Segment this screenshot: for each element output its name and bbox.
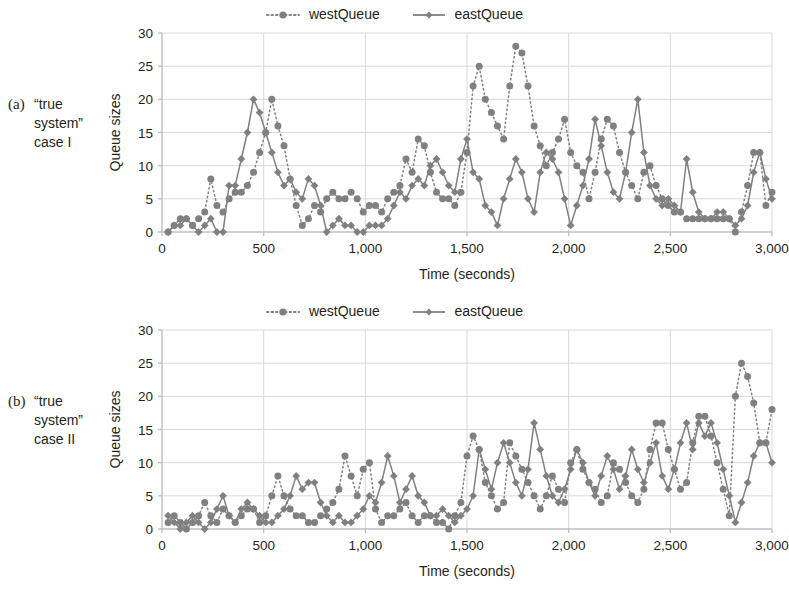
data-point-westqueue: [628, 492, 635, 499]
x-tick-label: 1,500: [450, 241, 484, 256]
data-point-westqueue: [378, 209, 385, 216]
data-point-westqueue: [354, 195, 361, 202]
x-tick-label: 0: [158, 538, 166, 553]
y-tick-label: 30: [138, 323, 153, 338]
y-tick-label: 10: [138, 159, 153, 174]
data-point-eastqueue: [494, 459, 502, 467]
data-point-eastqueue: [640, 479, 648, 487]
data-point-westqueue: [250, 169, 257, 176]
y-tick-label: 0: [145, 225, 153, 240]
data-point-eastqueue: [744, 479, 752, 487]
x-tick-label: 500: [252, 538, 275, 553]
data-point-eastqueue: [524, 195, 532, 203]
x-tick-label: 0: [158, 241, 166, 256]
data-point-westqueue: [445, 195, 452, 202]
data-point-westqueue: [293, 512, 300, 519]
data-point-westqueue: [299, 512, 306, 519]
data-point-eastqueue: [622, 168, 630, 176]
data-point-eastqueue: [378, 479, 386, 487]
data-point-eastqueue: [732, 519, 740, 527]
data-point-westqueue: [415, 519, 422, 526]
data-point-westqueue: [512, 43, 519, 50]
data-point-eastqueue: [677, 439, 685, 447]
data-point-westqueue: [457, 499, 464, 506]
data-point-westqueue: [415, 136, 422, 143]
data-point-eastqueue: [402, 485, 410, 493]
data-point-westqueue: [659, 419, 666, 426]
panel-a: (a) “true system” case I westQueue eastQ…: [0, 0, 789, 297]
data-point-eastqueue: [750, 452, 758, 460]
y-tick-label: 25: [138, 356, 153, 371]
data-point-eastqueue: [292, 472, 300, 480]
data-point-westqueue: [518, 49, 525, 56]
data-point-eastqueue: [494, 222, 502, 230]
y-tick-label: 20: [138, 389, 153, 404]
data-point-westqueue: [439, 195, 446, 202]
data-point-westqueue: [689, 215, 696, 222]
data-point-westqueue: [244, 182, 251, 189]
data-point-westqueue: [238, 189, 245, 196]
data-point-westqueue: [195, 215, 202, 222]
data-point-westqueue: [561, 116, 568, 123]
data-point-westqueue: [604, 116, 611, 123]
data-point-eastqueue: [530, 419, 538, 427]
data-point-eastqueue: [573, 202, 581, 210]
data-point-westqueue: [604, 492, 611, 499]
data-point-westqueue: [403, 156, 410, 163]
data-point-westqueue: [634, 499, 641, 506]
y-tick-label: 30: [138, 26, 153, 41]
data-point-westqueue: [762, 202, 769, 209]
data-point-eastqueue: [463, 135, 471, 143]
panel-b-plot: 05101520253005001,0001,5002,0002,5003,00…: [0, 297, 789, 594]
data-point-eastqueue: [616, 485, 624, 493]
data-point-eastqueue: [713, 439, 721, 447]
data-point-eastqueue: [573, 446, 581, 454]
data-point-eastqueue: [628, 129, 636, 137]
data-point-eastqueue: [475, 446, 483, 454]
data-point-westqueue: [232, 189, 239, 196]
data-point-westqueue: [335, 486, 342, 493]
x-tick-label: 2,500: [653, 241, 687, 256]
data-point-westqueue: [714, 459, 721, 466]
data-point-westqueue: [683, 215, 690, 222]
data-point-westqueue: [750, 400, 757, 407]
data-point-westqueue: [665, 446, 672, 453]
data-point-westqueue: [640, 486, 647, 493]
data-point-eastqueue: [500, 439, 508, 447]
data-point-eastqueue: [652, 439, 660, 447]
data-point-eastqueue: [488, 485, 496, 493]
data-point-eastqueue: [683, 419, 691, 427]
data-point-westqueue: [586, 195, 593, 202]
data-point-westqueue: [470, 83, 477, 90]
data-point-eastqueue: [561, 485, 569, 493]
data-point-westqueue: [531, 122, 538, 129]
data-point-westqueue: [207, 175, 214, 182]
data-point-westqueue: [342, 195, 349, 202]
data-point-westqueue: [610, 122, 617, 129]
data-point-westqueue: [439, 519, 446, 526]
data-point-eastqueue: [268, 149, 276, 157]
panel-b: (b) “true system” case II westQueue east…: [0, 297, 789, 594]
data-point-westqueue: [360, 466, 367, 473]
data-point-eastqueue: [597, 142, 605, 150]
data-point-westqueue: [506, 83, 513, 90]
data-point-eastqueue: [390, 202, 398, 210]
data-point-westqueue: [744, 373, 751, 380]
data-point-westqueue: [421, 142, 428, 149]
data-point-eastqueue: [725, 492, 733, 500]
y-tick-label: 20: [138, 92, 153, 107]
data-point-eastqueue: [384, 452, 392, 460]
data-point-westqueue: [201, 209, 208, 216]
data-point-eastqueue: [219, 228, 227, 236]
data-point-westqueue: [555, 136, 562, 143]
data-point-eastqueue: [591, 492, 599, 500]
data-point-westqueue: [378, 519, 385, 526]
data-point-eastqueue: [512, 479, 520, 487]
data-point-westqueue: [384, 195, 391, 202]
data-point-westqueue: [354, 492, 361, 499]
data-point-eastqueue: [408, 472, 416, 480]
data-point-eastqueue: [646, 182, 654, 190]
data-point-eastqueue: [683, 155, 691, 163]
data-point-eastqueue: [213, 505, 221, 513]
data-point-westqueue: [494, 506, 501, 513]
